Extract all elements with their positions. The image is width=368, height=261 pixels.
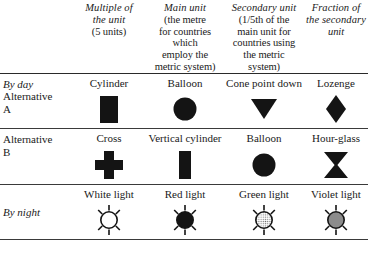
cell-label: Hour-glass: [312, 132, 360, 145]
filled-rectangle-vertical-icon: [100, 94, 118, 124]
filled-cross-icon: [95, 150, 123, 180]
column-header-sub-line: unit: [306, 26, 366, 38]
column-header-title-line2: the secondary: [306, 14, 366, 26]
column-header-sub-line: countries using: [226, 37, 302, 49]
row-stub-label-line2: A: [3, 103, 68, 116]
cell-label: Cone point down: [226, 77, 302, 90]
column-header-sub-line: main unit for: [226, 26, 302, 38]
filled-diamond-icon: [326, 94, 346, 124]
filled-circle-icon: [252, 150, 276, 180]
column-header-sub-line: for countries: [148, 26, 222, 38]
column-header-sub-line: metric system): [148, 61, 222, 73]
cell-lozenge: Lozenge: [304, 74, 368, 129]
table-row-by-day-alternative-a: By day Alternative A Cylinder Balloon Co…: [0, 74, 368, 129]
cell-label: Cross: [96, 132, 121, 145]
column-header-sub-line: the metric: [226, 49, 302, 61]
cell-label: Cylinder: [90, 77, 129, 90]
cell-label: Balloon: [168, 77, 203, 90]
cell-vertical-cylinder: Vertical cylinder: [146, 129, 224, 184]
column-header-sub-line: which: [148, 37, 222, 49]
column-header-title: Multiple of: [74, 2, 144, 14]
row-stub-alternative-b: Alternative B: [0, 129, 72, 184]
column-header-main-unit: Main unit (the metre for countries which…: [146, 2, 224, 73]
cell-label: Violet light: [311, 188, 361, 201]
column-header-secondary-unit: Secondary unit (1/5th of the main unit f…: [224, 2, 304, 73]
cell-label: Balloon: [247, 132, 282, 145]
table-header-row: Multiple of the unit (5 units) Main unit…: [0, 0, 368, 73]
filled-triangle-down-icon: [251, 94, 277, 124]
cell-cylinder: Cylinder: [72, 74, 146, 129]
row-stub-label-line1: Alternative: [3, 133, 68, 146]
rayed-circle-white-icon: [94, 205, 124, 235]
column-header-sub-line: (the metre: [148, 14, 222, 26]
cell-label: Vertical cylinder: [149, 132, 222, 145]
row-stub-label-line1: Alternative: [3, 90, 68, 103]
cell-label: Lozenge: [317, 77, 355, 90]
row-stub-italic-label: By night: [3, 206, 40, 219]
row-stub-by-night: By night: [0, 185, 72, 240]
column-header-sub-line: system): [226, 61, 302, 73]
filled-hourglass-icon: [324, 150, 348, 180]
rayed-circle-violet-icon: [321, 205, 351, 235]
filled-circle-icon: [173, 94, 197, 124]
column-header-sub-line: (1/5th of the: [226, 14, 302, 26]
filled-rectangle-narrow-icon: [179, 150, 191, 180]
cell-balloon-a: Balloon: [146, 74, 224, 129]
row-stub-label-line2: B: [3, 146, 68, 159]
table-row-by-night: By night White light Re: [0, 185, 368, 240]
column-header-title-line2: the unit: [74, 14, 144, 26]
rayed-circle-green-icon: [249, 205, 279, 235]
column-header-multiple-of-the-unit: Multiple of the unit (5 units): [72, 2, 146, 37]
column-header-sub-line: (5 units): [74, 26, 144, 38]
cell-hour-glass: Hour-glass: [304, 129, 368, 184]
cell-cone-point-down: Cone point down: [224, 74, 304, 129]
cell-label: Green light: [239, 188, 289, 201]
cell-violet-light: Violet light: [304, 185, 368, 240]
rayed-circle-red-icon: [170, 205, 200, 235]
cell-balloon-b: Balloon: [224, 129, 304, 184]
cell-green-light: Green light: [224, 185, 304, 240]
column-header-sub-line: employ the: [148, 49, 222, 61]
table-row-alternative-b: Alternative B Cross Vertical cylinder Ba…: [0, 129, 368, 184]
column-header-title: Fraction of: [306, 2, 366, 14]
row-stub-by-day-alternative-a: By day Alternative A: [0, 74, 72, 129]
cell-red-light: Red light: [146, 185, 224, 240]
row-stub-italic-label: By day: [3, 78, 68, 91]
column-header-fraction-of-the-secondary-unit: Fraction of the secondary unit: [304, 2, 368, 37]
cell-white-light: White light: [72, 185, 146, 240]
cell-cross: Cross: [72, 129, 146, 184]
column-header-title: Secondary unit: [226, 2, 302, 14]
column-header-title: Main unit: [148, 2, 222, 14]
table-bottom-rule: [0, 239, 368, 240]
cell-label: White light: [84, 188, 134, 201]
signal-symbols-table: Multiple of the unit (5 units) Main unit…: [0, 0, 368, 261]
cell-label: Red light: [165, 188, 206, 201]
